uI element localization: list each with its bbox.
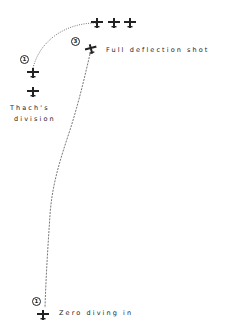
position-marker-thach-1: 1 — [20, 55, 29, 64]
full-deflection-shot-label: Full deflection shot — [106, 47, 210, 54]
aircraft-icon — [37, 310, 49, 320]
position-marker-zero-3: 3 — [71, 37, 80, 46]
aircraft-icon — [108, 18, 120, 28]
aircraft-icon — [124, 18, 136, 28]
aircraft-icon — [91, 18, 103, 28]
zero-dive-path — [45, 54, 90, 308]
position-marker-zero-1: 1 — [32, 297, 41, 306]
thach-division-label-line2: division — [14, 116, 56, 123]
zero-diving-in-label: Zero diving in — [59, 310, 133, 317]
diagram-canvas: 1 3 1 Thach's division Full deflection s… — [0, 0, 232, 334]
thach-division-label-line1: Thach's — [10, 105, 50, 112]
aircraft-icon — [27, 68, 39, 78]
aircraft-icon — [27, 87, 39, 97]
